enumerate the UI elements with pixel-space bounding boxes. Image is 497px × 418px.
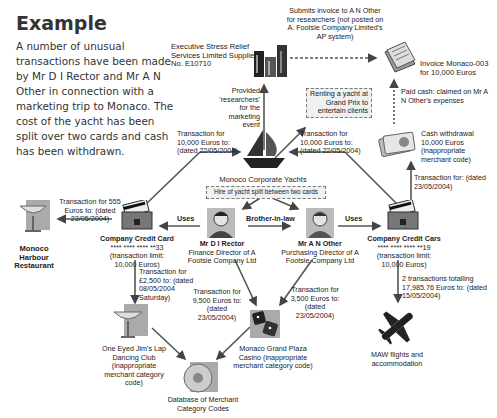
card1-label: Company Credit Card **** **** **** **33 … <box>100 235 174 269</box>
person-other-avatar <box>306 208 334 238</box>
credit-card-wallet-icon <box>120 200 154 230</box>
supplier-label: Executive Stress Relief Services Limited… <box>171 43 261 69</box>
renting-note-box: Renting a yacht at Grand Prix to enterta… <box>306 88 372 118</box>
brother-in-law-label: Brother-in-law <box>246 215 295 224</box>
person-rector-avatar <box>207 208 235 238</box>
database-label: Database of Merchant Category Codes <box>160 396 246 413</box>
flights-label: MAW flights and accommodation <box>365 351 429 368</box>
rector-role: Finance Director of A Footsie Company Lt… <box>186 249 258 266</box>
other-label: Mr A N Other Purchasing Director of A Fo… <box>280 240 360 266</box>
txn-right-yacht-label: Transaction for 10,000 Euros to: (dated … <box>300 130 370 156</box>
champagne-glass-icon <box>112 300 150 340</box>
txn-cash-label: Transaction for: (dated 23/05/2004) <box>414 174 494 191</box>
invoice-document-icon <box>381 42 417 74</box>
uses-right-label: Uses <box>345 215 362 224</box>
txn-flights-label: 2 transactions totalling 17,985.76 Euros… <box>402 275 494 301</box>
restaurant-label: Monoco Harbour Restaurant <box>4 245 64 271</box>
credit-card-wallet-icon <box>386 200 420 230</box>
rector-label: Mr D I Rector Finance Director of A Foot… <box>186 240 258 266</box>
yacht-company-label: Monoco Corporate Yachts <box>200 176 326 185</box>
txn-left-yacht-label: Transaction for 10,000 Euros to: (dated … <box>177 130 247 156</box>
txn-casino-rector-label: Transaction for 9,500 Euros to: (dated 2… <box>189 288 245 322</box>
txn-casino-other-label: Transaction for 3,500 Euros to: (dated 2… <box>287 286 343 320</box>
dice-icon <box>250 310 280 338</box>
cash-banknotes-icon <box>378 128 418 160</box>
other-role: Purchasing Director of A Footsie Company… <box>280 249 360 266</box>
paid-cash-label: Paid cash: claimed on Mr A N Other's exp… <box>401 88 491 105</box>
yacht-split-box: Hire of yacht split between two cards <box>206 186 326 199</box>
sailboat-icon <box>241 128 287 170</box>
airplane-icon <box>372 304 422 348</box>
intro-paragraph: A number of unusual transactions have be… <box>16 39 176 159</box>
cocktail-glass-icon <box>16 196 52 236</box>
database-disc-icon <box>180 360 220 396</box>
card2-limit: (transaction limit: 10,000 Euros) <box>366 252 442 269</box>
casino-label: Monaco Grand Plaza Casino (inappropriate… <box>230 345 316 371</box>
card2-label: Company Credit Cars **** **** **** **19 … <box>366 235 442 269</box>
club-label: One Eyed Jim's Lap Dancing Club (inappro… <box>100 345 168 388</box>
txn-restaurant-label: Transaction for 555 Euros to: (dated 23/… <box>58 198 122 224</box>
uses-left-label: Uses <box>177 215 194 224</box>
page-title: Example <box>16 12 107 34</box>
office-building-icon <box>252 41 289 78</box>
submits-invoice-label: Submits invoice to A N Other for researc… <box>285 7 385 41</box>
cash-withdrawal-label: Cash withdrawal 10,000 Euros (inappropri… <box>421 130 497 164</box>
invoice-label: Invoice Monaco-003 for 10,000 Euros <box>420 60 496 77</box>
provided-label: Provided 'researchers' for the marketing… <box>210 87 260 130</box>
